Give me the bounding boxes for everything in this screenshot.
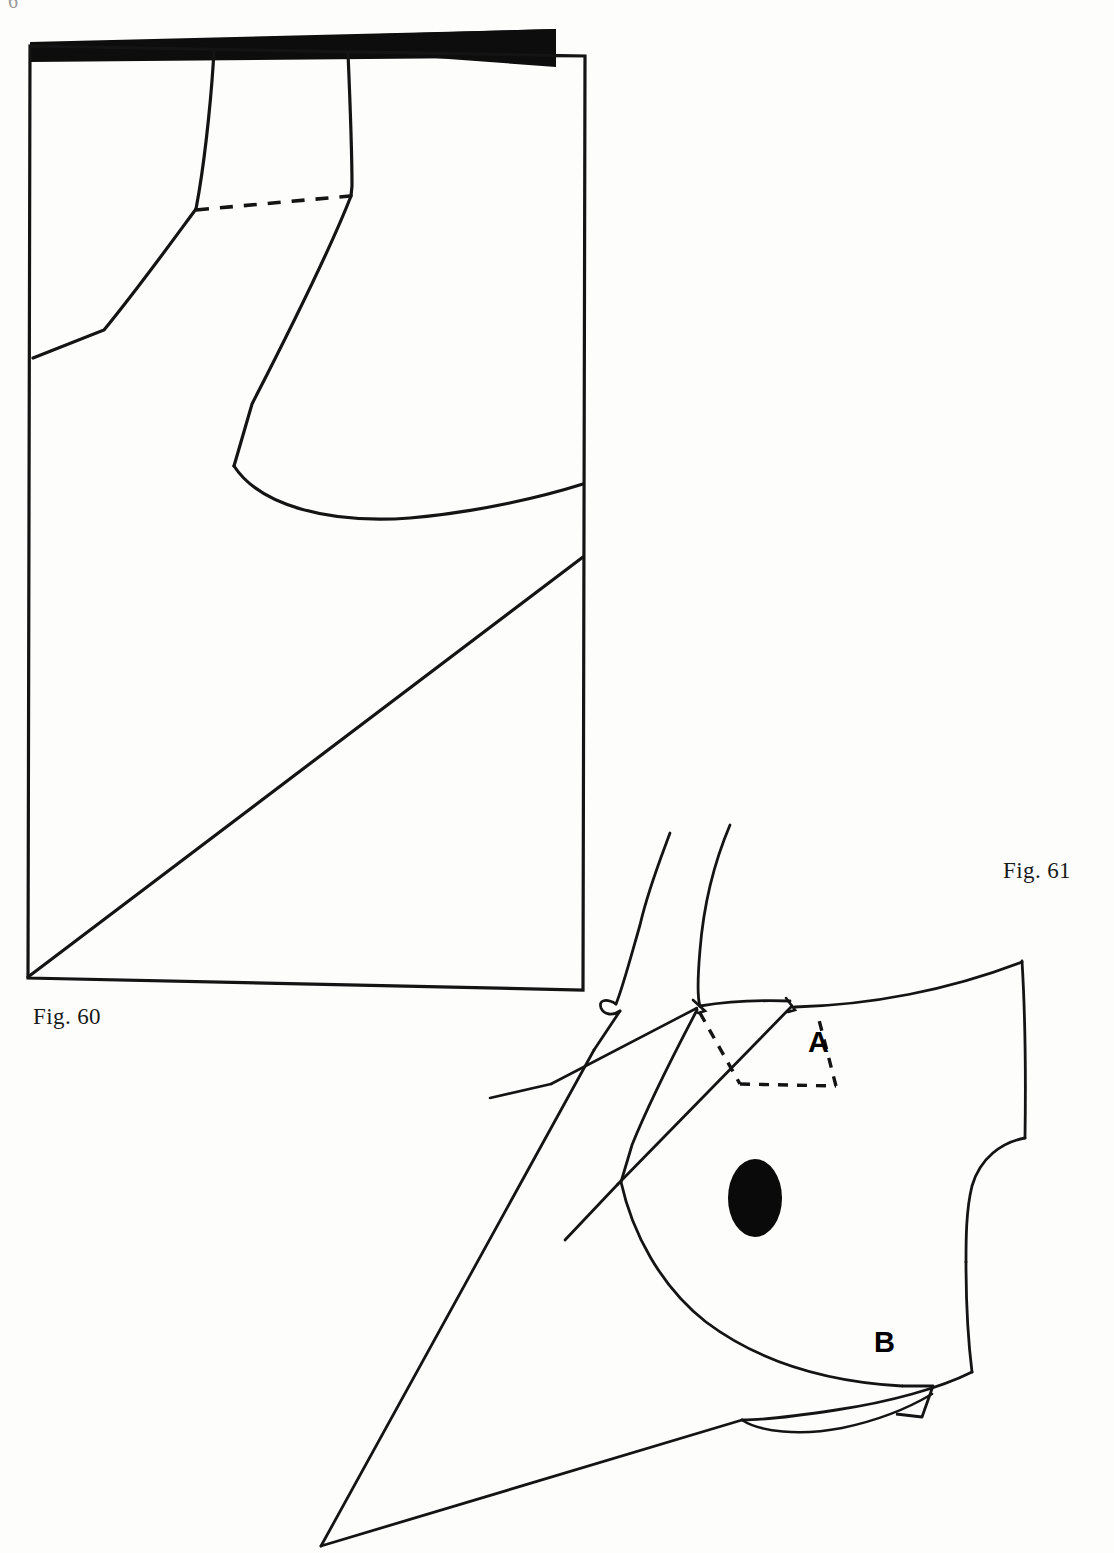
fig61-shoulder-line xyxy=(594,1011,620,1050)
pattern-plate-drawing xyxy=(0,0,1114,1553)
figure-61-caption: Fig. 61 xyxy=(1003,858,1071,884)
fig61-right-edge-lower xyxy=(966,1262,972,1372)
fig60-bias-diagonal xyxy=(28,557,583,977)
fig61-label-a: A xyxy=(808,1026,829,1059)
fig60-left-seam xyxy=(196,50,214,209)
fig61-upper-left-edge xyxy=(321,1050,594,1546)
fig60-right-seam xyxy=(348,53,352,196)
plate-page: 6 xyxy=(0,0,1114,1553)
fig60-dart-dashed-line xyxy=(196,196,350,210)
fig61-inner-construction-line xyxy=(551,1008,697,1084)
fig61-inner-construction-line-tail xyxy=(490,1084,551,1098)
fig61-dart-dashed-bottom xyxy=(740,1084,836,1086)
fig61-armscye-diagonal xyxy=(618,1006,792,1184)
fig60-fold-bar-tip xyxy=(380,29,556,67)
fig60-sheet-outline xyxy=(28,46,585,990)
fig60-right-seam-lower xyxy=(234,196,351,466)
fig61-neck-curve-right xyxy=(698,825,730,1006)
fig61-shoulder-seam xyxy=(700,1001,790,1006)
fig61-right-edge-step xyxy=(966,1138,1025,1262)
fig61-lower-left-edge xyxy=(321,1420,742,1546)
fig61-hem-edge xyxy=(742,1372,972,1420)
fig61-right-edge-upper xyxy=(1022,961,1025,1138)
fig61-neck-curve-left xyxy=(616,833,670,1004)
fig61-hem-tab-curve xyxy=(742,1394,932,1432)
fig60-hem-curve xyxy=(234,466,583,519)
fig60-left-seam-lower xyxy=(33,209,196,358)
fig61-armscye-diagonal-tail xyxy=(565,1184,618,1240)
fig61-armhole-curve-upper xyxy=(621,1010,697,1182)
figure-60-caption: Fig. 60 xyxy=(33,1004,101,1030)
fig61-upper-right-edge xyxy=(795,962,1022,1007)
fig61-dart-dashed-left xyxy=(700,1013,740,1084)
figure-61-group xyxy=(321,825,1025,1546)
fig61-bust-point-marker xyxy=(728,1159,782,1237)
fig61-label-b: B xyxy=(874,1326,895,1359)
figure-60-group xyxy=(28,29,585,990)
